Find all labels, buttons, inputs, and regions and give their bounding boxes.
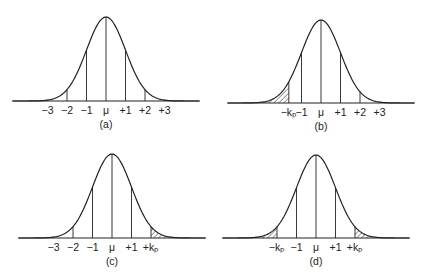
- panel-c: −3−2−1μ+1+kₚ(c): [18, 154, 205, 267]
- tick-label: +1: [126, 241, 138, 253]
- tick-label: μ: [109, 241, 115, 253]
- shaded-tail-left: [227, 82, 288, 103]
- panel-caption: (a): [100, 118, 113, 130]
- tick-label: +3: [159, 104, 171, 116]
- tick-label: +2: [139, 104, 151, 116]
- panel-caption: (d): [310, 255, 323, 267]
- normal-distribution-figure: −3−2−1μ+1+2+3(a) −kₚ−1μ+1+2+3(b) −3−2−1μ…: [0, 0, 430, 277]
- tick-label: −3: [42, 104, 54, 116]
- tick-label: −1: [296, 106, 308, 118]
- tick-label: +kₚ: [347, 241, 363, 253]
- tick-label: −1: [81, 104, 93, 116]
- tick-label: −2: [67, 241, 79, 253]
- panel-a: −3−2−1μ+1+2+3(a): [12, 17, 199, 130]
- tick-label: μ: [318, 106, 324, 118]
- tick-label: −1: [87, 241, 99, 253]
- shaded-tail-right: [151, 227, 206, 238]
- tick-label: +kₚ: [143, 241, 159, 253]
- panel-d: −kₚ−1μ+1+kₚ(d): [222, 155, 409, 267]
- tick-label: +1: [335, 106, 347, 118]
- tick-label: μ: [103, 104, 109, 116]
- tick-label: −1: [291, 241, 303, 253]
- tick-label: +2: [354, 106, 366, 118]
- tick-label: +3: [374, 106, 386, 118]
- tick-label: +1: [120, 104, 132, 116]
- tick-label: μ: [313, 241, 319, 253]
- shaded-tail-left: [222, 227, 277, 238]
- shaded-tail-right: [355, 227, 410, 238]
- tick-label: −kₚ: [269, 241, 285, 253]
- tick-label: −2: [61, 104, 73, 116]
- tick-label: −3: [48, 241, 60, 253]
- panel-caption: (b): [315, 120, 328, 132]
- tick-label: +1: [330, 241, 342, 253]
- panel-b: −kₚ−1μ+1+2+3(b): [227, 20, 414, 132]
- panel-caption: (c): [106, 255, 118, 267]
